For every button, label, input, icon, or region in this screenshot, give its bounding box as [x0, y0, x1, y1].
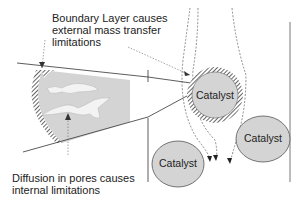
diffusion-annotation-line1: Diffusion in pores causes — [12, 172, 135, 184]
pore-section-zoom — [32, 70, 131, 143]
boundary-annotation-line1: Boundary Layer causes — [52, 12, 168, 24]
catalyst-label-main: Catalyst — [193, 89, 237, 101]
diffusion-annotation: Diffusion in pores causes internal limit… — [12, 172, 135, 196]
diffusion-annotation-line2: internal limitations — [12, 184, 135, 196]
boundary-layer-annotation: Boundary Layer causes external mass tran… — [52, 12, 168, 48]
boundary-annotation-line3: limitations — [52, 36, 168, 48]
catalyst-label-bottom: Catalyst — [156, 157, 200, 169]
boundary-pointer-right — [128, 47, 190, 75]
catalyst-label-right: Catalyst — [241, 132, 285, 144]
boundary-annotation-line2: external mass transfer — [52, 24, 168, 36]
